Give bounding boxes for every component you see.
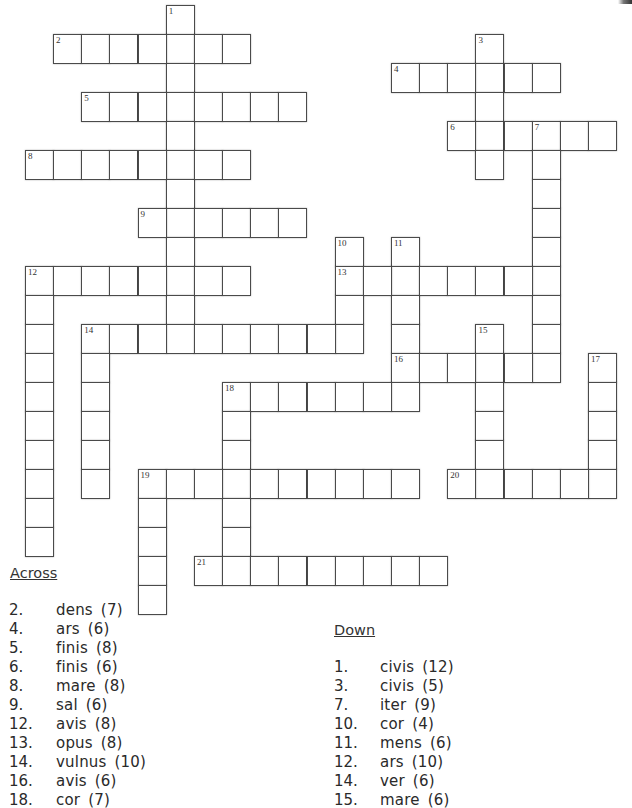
cell-letter-input[interactable] <box>139 209 166 237</box>
cell-letter-input[interactable] <box>54 151 81 179</box>
cell-letter-input[interactable] <box>167 209 194 237</box>
grid-cell[interactable] <box>138 585 167 615</box>
cell-letter-input[interactable] <box>82 151 109 179</box>
grid-cell[interactable]: 15 <box>475 324 504 354</box>
cell-letter-input[interactable] <box>279 209 306 237</box>
grid-cell[interactable] <box>166 237 195 267</box>
grid-cell[interactable]: 16 <box>391 353 420 383</box>
cell-letter-input[interactable] <box>364 267 391 295</box>
cell-letter-input[interactable] <box>336 238 363 266</box>
cell-letter-input[interactable] <box>392 557 419 585</box>
cell-letter-input[interactable] <box>251 557 278 585</box>
grid-cell[interactable] <box>588 382 617 412</box>
cell-letter-input[interactable] <box>279 557 306 585</box>
cell-letter-input[interactable] <box>392 325 419 353</box>
cell-letter-input[interactable] <box>476 354 503 382</box>
cell-letter-input[interactable] <box>561 470 588 498</box>
grid-cell[interactable] <box>250 324 279 354</box>
cell-letter-input[interactable] <box>139 35 166 63</box>
cell-letter-input[interactable] <box>26 499 53 527</box>
cell-letter-input[interactable] <box>336 557 363 585</box>
grid-cell[interactable] <box>588 411 617 441</box>
cell-letter-input[interactable] <box>476 64 503 92</box>
grid-cell[interactable] <box>278 382 307 412</box>
grid-cell[interactable] <box>307 324 336 354</box>
cell-letter-input[interactable] <box>589 412 616 440</box>
grid-cell[interactable] <box>363 469 392 499</box>
cell-letter-input[interactable] <box>561 122 588 150</box>
cell-letter-input[interactable] <box>223 151 250 179</box>
cell-letter-input[interactable] <box>167 267 194 295</box>
cell-letter-input[interactable] <box>420 354 447 382</box>
cell-letter-input[interactable] <box>448 122 475 150</box>
grid-cell[interactable] <box>250 382 279 412</box>
grid-cell[interactable] <box>53 150 82 180</box>
grid-cell[interactable] <box>363 382 392 412</box>
cell-letter-input[interactable] <box>223 93 250 121</box>
grid-cell[interactable] <box>222 498 251 528</box>
cell-letter-input[interactable] <box>364 470 391 498</box>
cell-letter-input[interactable] <box>26 151 53 179</box>
grid-cell[interactable] <box>588 121 617 151</box>
grid-cell[interactable] <box>81 469 110 499</box>
grid-cell[interactable] <box>222 440 251 470</box>
grid-cell[interactable] <box>194 150 223 180</box>
cell-letter-input[interactable] <box>476 122 503 150</box>
cell-letter-input[interactable] <box>364 383 391 411</box>
grid-cell[interactable] <box>222 92 251 122</box>
cell-letter-input[interactable] <box>110 93 137 121</box>
grid-cell[interactable] <box>447 266 476 296</box>
grid-cell[interactable]: 9 <box>138 208 167 238</box>
grid-cell[interactable] <box>25 411 54 441</box>
grid-cell[interactable] <box>81 353 110 383</box>
grid-cell[interactable] <box>307 469 336 499</box>
cell-letter-input[interactable] <box>533 122 560 150</box>
cell-letter-input[interactable] <box>505 470 532 498</box>
cell-letter-input[interactable] <box>167 325 194 353</box>
grid-cell[interactable] <box>250 208 279 238</box>
grid-cell[interactable] <box>109 34 138 64</box>
grid-cell[interactable]: 2 <box>53 34 82 64</box>
grid-cell[interactable] <box>109 92 138 122</box>
grid-cell[interactable] <box>307 382 336 412</box>
grid-cell[interactable] <box>222 34 251 64</box>
cell-letter-input[interactable] <box>308 325 335 353</box>
cell-letter-input[interactable] <box>195 93 222 121</box>
cell-letter-input[interactable] <box>251 93 278 121</box>
grid-cell[interactable] <box>25 440 54 470</box>
cell-letter-input[interactable] <box>223 412 250 440</box>
grid-cell[interactable] <box>475 469 504 499</box>
grid-cell[interactable] <box>391 469 420 499</box>
cell-letter-input[interactable] <box>533 325 560 353</box>
cell-letter-input[interactable] <box>110 35 137 63</box>
cell-letter-input[interactable] <box>589 122 616 150</box>
cell-letter-input[interactable] <box>139 470 166 498</box>
grid-cell[interactable] <box>278 324 307 354</box>
cell-letter-input[interactable] <box>195 209 222 237</box>
grid-cell[interactable] <box>138 556 167 586</box>
cell-letter-input[interactable] <box>448 267 475 295</box>
cell-letter-input[interactable] <box>195 267 222 295</box>
grid-cell[interactable] <box>138 498 167 528</box>
grid-cell[interactable] <box>166 266 195 296</box>
grid-cell[interactable] <box>504 121 533 151</box>
grid-cell[interactable] <box>335 382 364 412</box>
cell-letter-input[interactable] <box>223 325 250 353</box>
grid-cell[interactable]: 17 <box>588 353 617 383</box>
grid-cell[interactable] <box>81 266 110 296</box>
grid-cell[interactable] <box>391 295 420 325</box>
cell-letter-input[interactable] <box>82 93 109 121</box>
grid-cell[interactable]: 21 <box>194 556 223 586</box>
grid-cell[interactable] <box>475 440 504 470</box>
grid-cell[interactable] <box>532 179 561 209</box>
grid-cell[interactable] <box>391 382 420 412</box>
grid-cell[interactable] <box>166 324 195 354</box>
cell-letter-input[interactable] <box>448 354 475 382</box>
cell-letter-input[interactable] <box>476 267 503 295</box>
grid-cell[interactable]: 6 <box>447 121 476 151</box>
cell-letter-input[interactable] <box>505 64 532 92</box>
cell-letter-input[interactable] <box>167 122 194 150</box>
grid-cell[interactable] <box>447 353 476 383</box>
grid-cell[interactable] <box>504 266 533 296</box>
cell-letter-input[interactable] <box>139 586 166 614</box>
